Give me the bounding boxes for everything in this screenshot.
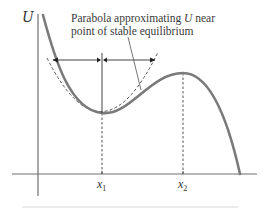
x1-sub: 1 xyxy=(102,184,106,193)
parabola-annotation: Parabola approximating U near point of s… xyxy=(71,12,215,38)
annotation-leader-line xyxy=(128,37,141,90)
annotation-line-1: Parabola approximating U near xyxy=(71,12,215,25)
potential-energy-diagram: U Parabola approximating U near point of… xyxy=(0,0,266,211)
x2-sub: 2 xyxy=(183,184,187,193)
y-axis-label: U xyxy=(22,9,34,25)
annotation-text: near xyxy=(192,12,215,24)
annotation-line-2: point of stable equilibrium xyxy=(71,25,215,38)
potential-curve xyxy=(43,15,240,174)
x1-label: x1 xyxy=(97,177,106,193)
annotation-text: Parabola approximating xyxy=(71,12,184,24)
x2-label: x2 xyxy=(178,177,187,193)
